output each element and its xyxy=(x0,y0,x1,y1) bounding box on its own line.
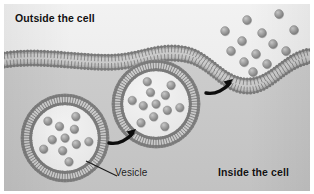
vignette xyxy=(4,4,310,191)
outside-the-cell-label: Outside the cell xyxy=(15,12,95,24)
diagram-svg xyxy=(4,4,310,191)
exocytosis-diagram: Outside the cell Inside the cell Vesicle xyxy=(0,0,314,194)
vesicle-label: Vesicle xyxy=(115,167,147,178)
diagram-scene xyxy=(4,4,310,191)
inside-the-cell-label: Inside the cell xyxy=(218,166,289,178)
